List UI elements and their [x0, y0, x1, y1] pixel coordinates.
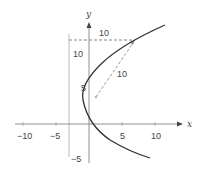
y-tick-label-5: 5 — [81, 83, 86, 93]
x-tick-label-5: 5 — [120, 131, 125, 141]
x-tick-label-neg5: −5 — [50, 131, 60, 141]
diagonal-distance-label: 10 — [117, 69, 127, 79]
x-tick-label-10: 10 — [151, 131, 161, 141]
y-axis-arrow-icon — [87, 22, 92, 28]
y-tick-label-neg5: −5 — [71, 154, 81, 164]
focal-dashed-line — [96, 43, 133, 97]
y-axis-label: y — [85, 9, 92, 19]
x-tick-label-neg10: −10 — [17, 131, 32, 141]
top-distance-label: 10 — [99, 28, 109, 38]
x-axis-label: x — [187, 119, 192, 129]
left-distance-label: 10 — [73, 49, 83, 59]
x-axis-arrow-icon — [177, 122, 183, 127]
parabola-diagram: y x −10 −5 5 10 5 −5 10 10 10 — [0, 0, 203, 173]
focus-point — [95, 96, 98, 99]
